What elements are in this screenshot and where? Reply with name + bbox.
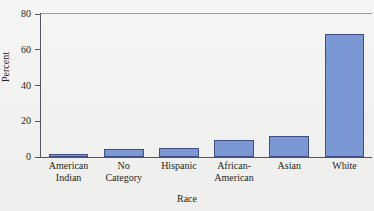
- x-axis-category-label: NoCategory: [96, 160, 151, 183]
- y-axis-title: Percent: [1, 37, 11, 97]
- bar: [159, 148, 199, 157]
- bar: [104, 149, 144, 157]
- x-axis-category-label: Hispanic: [151, 160, 206, 172]
- bar: [325, 34, 365, 157]
- x-axis-title: Race: [0, 194, 374, 204]
- bar-chart-figure: 020406080 Percent AmericanIndianNoCatego…: [0, 0, 374, 211]
- bar: [269, 136, 309, 157]
- y-axis-tick-label: 20: [1, 116, 31, 126]
- bars-group: [41, 14, 372, 157]
- x-axis-line: [40, 157, 372, 158]
- y-axis-tick-label: 80: [1, 9, 31, 19]
- x-axis-category-labels: AmericanIndianNoCategoryHispanicAfrican-…: [41, 160, 372, 194]
- x-axis-category-label: Asian: [262, 160, 317, 172]
- x-axis-category-label: African-American: [207, 160, 262, 183]
- x-axis-category-label: White: [317, 160, 372, 172]
- y-axis-tick-label: 0: [1, 152, 31, 162]
- bar: [214, 140, 254, 157]
- x-axis-category-label: AmericanIndian: [41, 160, 96, 183]
- bar: [49, 154, 89, 157]
